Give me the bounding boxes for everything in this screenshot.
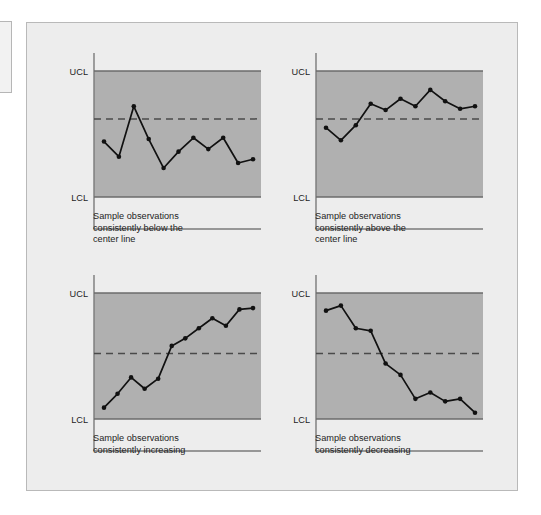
data-point bbox=[458, 397, 463, 402]
data-point bbox=[102, 139, 107, 144]
chart-caption: Sample observations consistently decreas… bbox=[315, 433, 490, 456]
data-point bbox=[339, 138, 344, 143]
data-point bbox=[146, 137, 151, 142]
ucl-label: UCL bbox=[292, 289, 310, 299]
ucl-label: UCL bbox=[70, 289, 88, 299]
data-point bbox=[237, 307, 242, 312]
data-point bbox=[102, 405, 107, 410]
data-point bbox=[428, 390, 433, 395]
data-point bbox=[197, 326, 202, 331]
data-point bbox=[413, 397, 418, 402]
data-point bbox=[115, 392, 120, 397]
chart-caption: Sample observations consistently above t… bbox=[315, 211, 490, 246]
data-point bbox=[117, 154, 122, 159]
control-band bbox=[94, 293, 261, 419]
data-point bbox=[339, 303, 344, 308]
data-point bbox=[368, 101, 373, 106]
data-point bbox=[383, 361, 388, 366]
data-point bbox=[206, 147, 211, 152]
data-point bbox=[176, 149, 181, 154]
control-band bbox=[94, 71, 261, 197]
data-point bbox=[129, 375, 134, 380]
data-point bbox=[428, 88, 433, 93]
data-point bbox=[236, 161, 241, 166]
cropped-edge-box bbox=[0, 21, 12, 93]
data-point bbox=[398, 373, 403, 378]
data-point bbox=[156, 376, 161, 381]
chart-caption: Sample observations consistently below t… bbox=[93, 211, 268, 246]
control-band bbox=[316, 71, 483, 197]
data-point bbox=[443, 399, 448, 404]
data-point bbox=[458, 107, 463, 112]
figure-panel: UCLLCL Sample observations consistently … bbox=[26, 22, 518, 491]
control-band bbox=[316, 293, 483, 419]
data-point bbox=[383, 108, 388, 113]
chart-cell-above-center-line: UCLLCL Sample observations consistently … bbox=[267, 33, 493, 259]
data-point bbox=[183, 336, 188, 341]
data-point bbox=[142, 386, 147, 391]
data-point bbox=[221, 135, 226, 140]
lcl-label: LCL bbox=[71, 193, 88, 203]
data-point bbox=[132, 104, 137, 109]
data-point bbox=[413, 104, 418, 109]
data-point bbox=[191, 135, 196, 140]
data-point bbox=[354, 123, 359, 128]
lcl-label: LCL bbox=[293, 193, 310, 203]
data-point bbox=[224, 323, 229, 328]
chart-cell-decreasing: UCLLCL Sample observations consistently … bbox=[267, 255, 493, 481]
data-point bbox=[251, 157, 256, 162]
lcl-label: LCL bbox=[71, 415, 88, 425]
lcl-label: LCL bbox=[293, 415, 310, 425]
ucl-label: UCL bbox=[292, 67, 310, 77]
data-point bbox=[473, 104, 478, 109]
chart-cell-below-center-line: UCLLCL Sample observations consistently … bbox=[45, 33, 271, 259]
data-point bbox=[169, 344, 174, 349]
ucl-label: UCL bbox=[70, 67, 88, 77]
data-point bbox=[354, 326, 359, 331]
data-point bbox=[443, 99, 448, 104]
chart-caption: Sample observations consistently increas… bbox=[93, 433, 268, 456]
data-point bbox=[368, 329, 373, 334]
data-point bbox=[398, 96, 403, 101]
data-point bbox=[251, 306, 256, 311]
data-point bbox=[324, 308, 329, 313]
chart-cell-increasing: UCLLCL Sample observations consistently … bbox=[45, 255, 271, 481]
data-point bbox=[324, 125, 329, 130]
data-point bbox=[210, 316, 215, 321]
data-point bbox=[473, 410, 478, 415]
data-point bbox=[161, 166, 166, 171]
